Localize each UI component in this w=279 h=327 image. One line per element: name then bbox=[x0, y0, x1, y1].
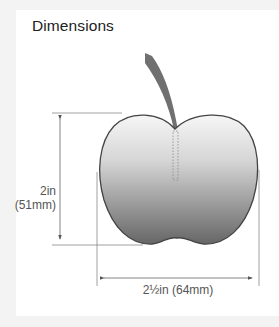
height-metric: (51mm) bbox=[14, 198, 56, 212]
width-label: 2½in (64mm) bbox=[120, 283, 236, 297]
apple-dimension-diagram bbox=[0, 0, 279, 327]
height-imperial: 2in bbox=[14, 184, 56, 198]
apple-icon bbox=[100, 115, 258, 244]
height-label: 2in (51mm) bbox=[14, 184, 56, 212]
